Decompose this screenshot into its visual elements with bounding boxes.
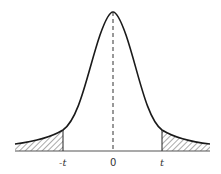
t-distribution-diagram: -t 0 t [0, 0, 221, 174]
label-zero: 0 [110, 157, 116, 168]
label-t: t [160, 157, 165, 168]
label-minus-t: -t [59, 157, 67, 168]
